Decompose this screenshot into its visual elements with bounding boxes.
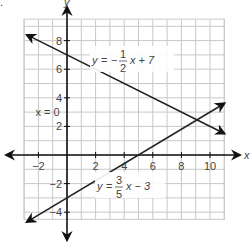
svg-text:2: 2 [120, 62, 126, 74]
y-tick-label: 4 [56, 92, 62, 104]
svg-text:=: = [106, 180, 112, 192]
x-tick-label: 6 [150, 160, 156, 172]
y-tick-label: 8 [56, 35, 62, 47]
y-axis-label: y [63, 0, 71, 8]
svg-text:3: 3 [116, 174, 122, 186]
x-tick-label: 8 [178, 160, 184, 172]
y-tick-label: −2 [49, 178, 62, 190]
svg-text:1: 1 [120, 48, 126, 60]
x-tick-label: 2 [93, 160, 99, 172]
x-tick-label: −2 [32, 160, 45, 172]
y-tick-label: 2 [56, 120, 62, 132]
x-axis-label: x [243, 149, 250, 161]
equation-label-1: y=−12x + 7 [90, 46, 174, 74]
coordinate-plane-chart: xy −22468108642−2−4 y=−12x + 7y=35x − 3x… [0, 0, 252, 244]
annotation-label: x = 0 [36, 106, 60, 118]
svg-text:−: − [111, 54, 117, 66]
equation-label-2: y=35x − 3 [95, 172, 165, 200]
y-tick-label: 6 [56, 63, 62, 75]
svg-text:x − 3: x − 3 [125, 180, 151, 192]
axes: xy [6, 0, 250, 240]
x-tick-label: 10 [204, 160, 216, 172]
svg-text:x + 7: x + 7 [129, 54, 155, 66]
svg-text:5: 5 [116, 188, 122, 200]
svg-text:=: = [101, 54, 107, 66]
